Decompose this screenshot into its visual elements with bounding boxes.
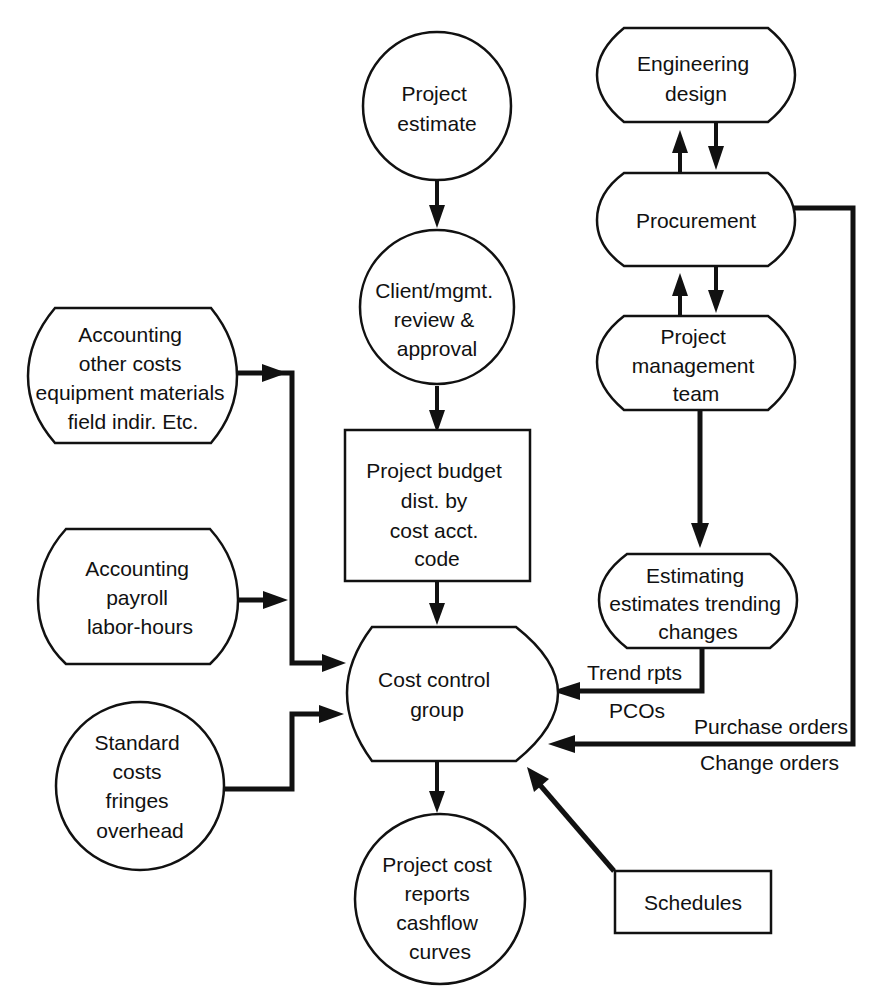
edge-label-change-orders: Change orders [700, 751, 839, 774]
edge-review-to-budget [429, 386, 445, 433]
node-project-cost-reports: Project cost reports cashflow curves [355, 814, 525, 984]
edge-accounting-other-to-costcontrol [238, 364, 346, 672]
node-label: Procurement [636, 209, 756, 232]
edge-standard-costs-to-costcontrol [224, 705, 344, 789]
edge-label-purchase-orders: Purchase orders [694, 715, 848, 738]
node-schedules: Schedules [615, 871, 771, 933]
node-project-budget: Project budget dist. by cost acct. code [345, 430, 530, 581]
node-standard-costs: Standard costs fringes overhead [56, 702, 224, 870]
edge-procurement-to-pmteam [708, 266, 724, 313]
node-accounting-payroll: Accounting payroll labor-hours [38, 529, 238, 664]
edge-procurement-to-engineering [672, 130, 688, 173]
edge-label-trend-rpts: Trend rpts [587, 661, 682, 684]
edge-schedules-to-costcontrol [527, 767, 614, 871]
edge-engineering-to-procurement [708, 122, 724, 170]
node-accounting-other-costs: Accounting other costs equipment materia… [28, 308, 237, 443]
node-engineering-design: Engineering design [597, 28, 795, 122]
edge-accounting-payroll-to-costcontrol [238, 591, 288, 609]
edge-budget-to-costcontrol [429, 581, 445, 625]
edge-pmteam-to-procurement [672, 273, 688, 316]
node-project-estimate: Project estimate [363, 32, 511, 180]
node-label: Schedules [644, 891, 742, 914]
edge-label-pcos: PCOs [609, 699, 665, 722]
node-estimating: Estimating estimates trending changes [599, 554, 797, 648]
edge-costcontrol-to-reports [429, 762, 445, 813]
node-cost-control-group: Cost control group [347, 627, 558, 761]
node-project-management-team: Project management team [597, 316, 795, 410]
edge-estimate-to-review [429, 177, 445, 228]
node-procurement: Procurement [597, 173, 795, 266]
node-client-review: Client/mgmt. review & approval [360, 230, 514, 384]
cost-control-flow-diagram: Project estimate Client/mgmt. review & a… [0, 0, 878, 1001]
edge-pmteam-to-estimating [691, 410, 709, 548]
